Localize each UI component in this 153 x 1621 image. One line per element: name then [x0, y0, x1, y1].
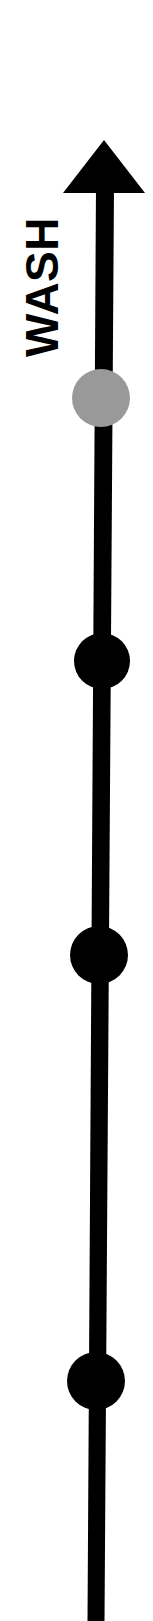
- axis-diagram-canvas: WASH: [0, 0, 153, 1621]
- wash-axis-figure: WASH: [0, 0, 153, 1621]
- node-gray: [72, 369, 130, 427]
- node-black-3: [67, 1352, 125, 1410]
- node-black-1: [74, 633, 130, 689]
- axis-label-wash: WASH: [16, 217, 68, 357]
- node-black-2: [70, 926, 128, 984]
